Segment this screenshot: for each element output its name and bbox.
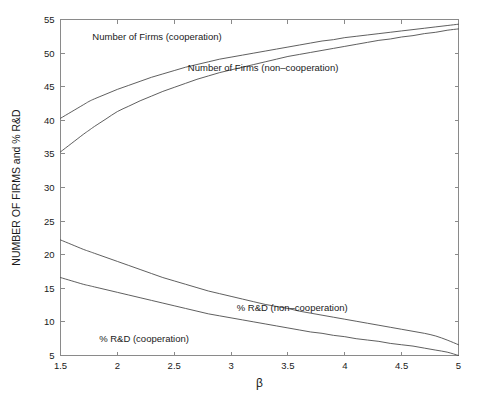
y-tick-label: 15 [44, 283, 55, 294]
y-tick-label: 55 [44, 14, 55, 25]
series-annotation-2: % R&D (non–cooperation) [237, 302, 348, 313]
chart-plot: 1.522.533.544.55510152025303540455055 Nu… [0, 0, 477, 397]
x-tick-label: 4 [342, 360, 347, 371]
y-tick-label: 40 [44, 115, 55, 126]
y-tick-label: 20 [44, 249, 55, 260]
y-tick-label: 5 [49, 350, 54, 361]
y-tick-label: 30 [44, 182, 55, 193]
x-axis-title: β [256, 376, 263, 390]
y-tick-label: 35 [44, 148, 55, 159]
plot-background [0, 0, 477, 397]
series-annotation-1: Number of Firms (non–cooperation) [188, 62, 338, 73]
y-axis-title: NUMBER OF FIRMS and % R&D [10, 109, 22, 266]
series-annotation-3: % R&D (cooperation) [99, 333, 189, 344]
x-tick-label: 2.5 [168, 360, 181, 371]
x-tick-label: 3.5 [281, 360, 294, 371]
figure-canvas: 1.522.533.544.55510152025303540455055 Nu… [0, 0, 477, 397]
x-tick-label: 1.5 [54, 360, 67, 371]
x-tick-label: 3 [228, 360, 233, 371]
x-tick-label: 4.5 [395, 360, 408, 371]
x-tick-label: 5 [456, 360, 461, 371]
y-tick-label: 45 [44, 81, 55, 92]
y-tick-label: 10 [44, 316, 55, 327]
y-tick-label: 50 [44, 48, 55, 59]
x-tick-label: 2 [115, 360, 120, 371]
y-tick-label: 25 [44, 216, 55, 227]
series-annotation-0: Number of Firms (cooperation) [92, 31, 221, 42]
